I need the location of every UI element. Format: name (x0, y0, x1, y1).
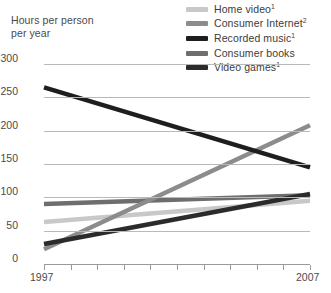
x-tick-1997 (44, 265, 45, 270)
legend-footnote-marker: 1 (291, 31, 295, 38)
legend-item-home-video[interactable]: Home video1 (186, 2, 331, 17)
x-tick-2001 (150, 265, 151, 270)
legend-label-home-video: Home video1 (214, 4, 275, 15)
gridline-50 (44, 231, 310, 232)
x-tick-label-2007: 2007 (296, 272, 319, 283)
x-tick-1998 (71, 265, 72, 270)
x-tick-2006 (283, 265, 284, 270)
y-tick-label-0: 0 (0, 253, 18, 264)
y-tick-label-50: 50 (0, 220, 18, 231)
legend-label-consumer-internet: Consumer Internet2 (214, 18, 307, 29)
x-tick-2000 (124, 265, 125, 270)
y-tick-label-200: 200 (0, 120, 18, 131)
y-tick-label-100: 100 (0, 186, 18, 197)
x-tick-2005 (257, 265, 258, 270)
gridline-300 (44, 64, 310, 65)
y-tick-label-300: 300 (0, 53, 18, 64)
gridline-100 (44, 197, 310, 198)
y-axis-title: Hours per person per year (11, 14, 94, 39)
plot-area: 050100150200250300 (44, 64, 310, 264)
x-tick-1999 (97, 265, 98, 270)
gridline-200 (44, 131, 310, 132)
legend-swatch-consumer-internet (186, 21, 208, 26)
line-chart: Hours per person per year Home video1Con… (0, 0, 331, 293)
legend-item-consumer-internet[interactable]: Consumer Internet2 (186, 17, 331, 32)
x-tick-2004 (230, 265, 231, 270)
legend-item-recorded-music[interactable]: Recorded music1 (186, 31, 331, 46)
legend-label-recorded-music: Recorded music1 (214, 33, 295, 44)
gridline-250 (44, 97, 310, 98)
series-line-recorded-music (44, 87, 310, 167)
legend-label-consumer-books: Consumer books (214, 48, 295, 59)
legend-item-consumer-books[interactable]: Consumer books (186, 46, 331, 61)
gridline-150 (44, 164, 310, 165)
x-tick-2007 (310, 265, 311, 270)
legend-swatch-consumer-books (186, 51, 208, 56)
y-tick-label-250: 250 (0, 86, 18, 97)
legend-footnote-marker: 2 (303, 17, 307, 24)
x-tick-label-1997: 1997 (30, 272, 53, 283)
x-tick-2002 (177, 265, 178, 270)
legend-swatch-home-video (186, 7, 208, 12)
y-tick-label-150: 150 (0, 153, 18, 164)
x-tick-2003 (204, 265, 205, 270)
legend-swatch-recorded-music (186, 36, 208, 41)
legend-footnote-marker: 1 (271, 2, 275, 9)
